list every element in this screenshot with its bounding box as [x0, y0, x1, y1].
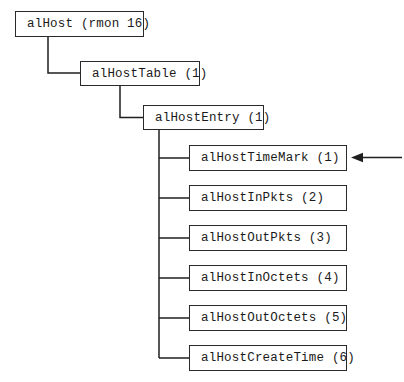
- node-alhostcreatetime: alHostCreateTime (6): [189, 345, 347, 371]
- diagram-canvas: alHost (rmon 16) alHostTable (1) alHostE…: [0, 0, 404, 382]
- node-alhostinpkts: alHostInPkts (2): [189, 185, 347, 211]
- connector-alhost-to-alhosttable: [48, 37, 80, 73]
- connector-alhosttable-to-alhostentry: [120, 86, 143, 118]
- node-alhosttable: alHostTable (1): [80, 61, 200, 86]
- node-alhosttimemark: alHostTimeMark (1): [189, 145, 347, 171]
- node-alhostoutoctets: alHostOutOctets (5): [189, 305, 347, 331]
- pointer-arrow-icon: [351, 153, 402, 162]
- node-alhostentry: alHostEntry (1): [143, 105, 264, 130]
- node-alhostoutpkts: alHostOutPkts (3): [189, 225, 347, 251]
- node-alhost: alHost (rmon 16): [15, 11, 144, 37]
- node-alhostinoctets: alHostInOctets (4): [189, 265, 347, 291]
